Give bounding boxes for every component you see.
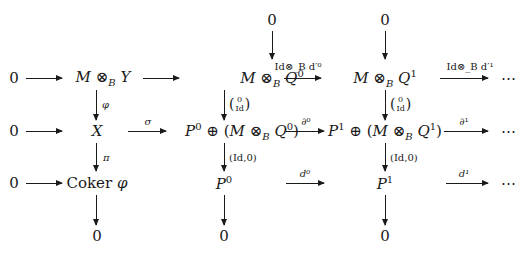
dots-text: ⋯	[501, 122, 516, 140]
partial1-text: ∂¹	[459, 116, 468, 127]
dots-text: ⋯	[501, 69, 516, 87]
node-M-otimes-Q1: M ⊗B Q1	[353, 68, 417, 89]
arrow-r1-zero-to-MY	[26, 78, 62, 79]
otimes-symbol: ⊗	[260, 69, 273, 87]
M-symbol: M	[373, 122, 388, 140]
top-zero-col3: 0	[380, 11, 390, 29]
projection-text: (Id,0)	[229, 152, 257, 163]
node-coker-phi: Coker φ	[67, 174, 128, 192]
matrix-bottom: Id	[235, 104, 243, 113]
arrow-inclusion-1	[385, 90, 386, 120]
label-d1: d¹	[459, 168, 469, 179]
lparen: (	[390, 96, 395, 112]
label-text: Id⊗_B d′⁰	[275, 61, 322, 72]
arrow-inclusion-0	[224, 90, 225, 120]
row2-ellipsis: ⋯	[501, 122, 516, 140]
P-symbol: P	[185, 122, 195, 140]
M-symbol: M	[353, 69, 368, 87]
arrow-projection-1	[385, 143, 386, 171]
arrow-r3-zero-to-coker	[26, 183, 62, 184]
arrow-sigma	[128, 131, 166, 132]
P-symbol: P	[377, 175, 387, 193]
label-partial0: ∂⁰	[301, 116, 310, 127]
sup-1: 1	[338, 121, 344, 132]
M-symbol: M	[230, 122, 245, 140]
row3-ellipsis: ⋯	[501, 174, 516, 192]
row2-zero: 0	[9, 122, 19, 140]
pi-text: π	[103, 152, 110, 163]
arrow-phi	[96, 90, 97, 120]
arrow-r1-MQ0-to-MQ1	[284, 78, 321, 79]
zero-text: 0	[380, 227, 390, 245]
arrow-r1-MQ1-to-dots	[440, 78, 488, 79]
node-P1-oplus-MQ1: P1 ⊕ (M ⊗B Q1)	[328, 121, 442, 142]
bottom-zero-col1: 0	[92, 227, 102, 245]
label-projection-0: (Id,0)	[229, 152, 257, 163]
row1-zero: 0	[9, 69, 19, 87]
coker-text: Coker	[67, 174, 113, 192]
label-inclusion-0: (0Id)	[229, 95, 250, 113]
sup-1: 1	[410, 68, 416, 79]
otimes-symbol: ⊗	[250, 122, 263, 140]
node-P1: P1	[377, 174, 393, 193]
label-phi: φ	[102, 99, 109, 110]
sup-1: 1	[387, 174, 393, 185]
label-text: Id⊗_B d′¹	[447, 61, 494, 72]
sup-0: 0	[195, 121, 201, 132]
Q-symbol: Q	[417, 122, 429, 140]
arrow-partial1	[444, 131, 488, 132]
M-symbol: M	[240, 69, 255, 87]
label-sigma: σ	[145, 116, 152, 127]
B-subscript: B	[273, 78, 280, 89]
rparen: )	[245, 96, 250, 112]
d0-text: d⁰	[300, 168, 310, 179]
dots-text: ⋯	[501, 174, 516, 192]
P-symbol: P	[328, 122, 338, 140]
otimes-symbol: ⊗	[96, 68, 109, 86]
M-symbol: M	[76, 68, 91, 86]
label-pi: π	[103, 152, 110, 163]
bottom-zero-col3: 0	[380, 227, 390, 245]
oplus-symbol: ⊕	[206, 122, 219, 140]
projection-text: (Id,0)	[390, 152, 418, 163]
d1-text: d¹	[459, 168, 469, 179]
arrow-r2-zero-to-X	[26, 131, 62, 132]
phi-symbol: φ	[117, 174, 128, 192]
node-X: X	[92, 122, 103, 140]
arrow-partial0	[286, 131, 324, 132]
B-subscript: B	[386, 78, 393, 89]
matrix-top: 0	[237, 95, 242, 104]
matrix-top: 0	[398, 95, 403, 104]
Q-symbol: Q	[398, 69, 410, 87]
Q-symbol: Q	[274, 122, 286, 140]
top-zero-col2: 0	[267, 11, 277, 29]
P-symbol: P	[216, 175, 226, 193]
Y-symbol: Y	[120, 68, 130, 86]
zero-text: 0	[92, 227, 102, 245]
B-subscript: B	[262, 131, 269, 142]
oplus-symbol: ⊕	[349, 122, 362, 140]
zero-text: 0	[267, 11, 277, 29]
node-M-otimes-Y: M ⊗B Y	[76, 68, 131, 88]
label-Id-otimes-dprime0: Id⊗_B d′⁰	[275, 61, 322, 72]
arrow-coker-to-zero	[96, 195, 97, 225]
label-partial1: ∂¹	[459, 116, 468, 127]
node-P0-oplus-MQ0: P0 ⊕ (M ⊗B Q0)	[185, 121, 299, 142]
rparen: )	[436, 122, 442, 140]
arrow-P1-to-zero	[385, 195, 386, 225]
label-projection-1: (Id,0)	[390, 152, 418, 163]
zero-text: 0	[219, 227, 229, 245]
otimes-symbol: ⊗	[393, 122, 406, 140]
zero-text: 0	[9, 174, 19, 192]
zero-text: 0	[380, 11, 390, 29]
label-d0: d⁰	[300, 168, 310, 179]
arrow-pi	[96, 143, 97, 171]
arrow-d0	[286, 183, 324, 184]
arrow-top-to-MQ1	[385, 31, 386, 59]
rparen: )	[406, 96, 411, 112]
otimes-symbol: ⊗	[373, 69, 386, 87]
B-subscript: B	[108, 77, 115, 88]
label-inclusion-1: (0Id)	[390, 95, 411, 113]
partial0-text: ∂⁰	[301, 116, 310, 127]
arrow-P0-to-zero	[224, 195, 225, 225]
